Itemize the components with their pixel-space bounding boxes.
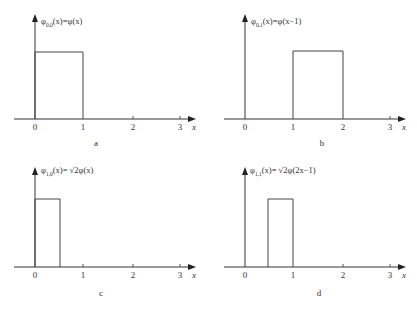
chart-title: φ0,1(x)=φ(x−1) — [251, 16, 302, 28]
chart-title: φ1,0(x)= √2φ(x) — [41, 165, 94, 177]
tick-label-1: 1 — [81, 270, 86, 280]
tick-label-1: 1 — [291, 270, 296, 280]
panel-c: 0 1 2 3 x φ1,0(x)= √2φ(x) c — [14, 165, 196, 298]
panel-caption: b — [320, 138, 325, 148]
panel-b: 0 1 2 3 x φ0,1(x)=φ(x−1) b — [224, 14, 406, 148]
step-function — [35, 199, 60, 267]
y-axis-arrow-icon — [242, 167, 248, 175]
haar-scaling-figure: 0 1 2 3 x φ0,0(x)=φ(x) a 0 1 2 3 x φ0,1(… — [0, 0, 417, 310]
tick-label-2: 2 — [131, 270, 136, 280]
tick-label-2: 2 — [341, 122, 346, 132]
step-function — [35, 52, 83, 119]
y-axis-arrow-icon — [32, 14, 38, 22]
chart-title: φ0,0(x)=φ(x) — [41, 16, 82, 28]
tick-label-3: 3 — [388, 270, 393, 280]
tick-label-0: 0 — [243, 122, 248, 132]
panel-caption: d — [317, 288, 322, 298]
tick-label-0: 0 — [33, 122, 38, 132]
tick-label-0: 0 — [243, 270, 248, 280]
panel-d: 0 1 2 3 x φ1,1(x)= √2φ(2x−1) d — [224, 165, 406, 298]
y-axis-arrow-icon — [32, 167, 38, 175]
y-axis-arrow-icon — [242, 14, 248, 22]
tick-label-0: 0 — [33, 270, 38, 280]
x-axis-label: x — [401, 270, 406, 280]
panel-caption: c — [99, 288, 103, 298]
x-axis-label: x — [401, 122, 406, 132]
step-function — [293, 51, 343, 119]
tick-label-3: 3 — [178, 270, 183, 280]
tick-label-2: 2 — [341, 270, 346, 280]
chart-title: φ1,1(x)= √2φ(2x−1) — [250, 165, 316, 177]
x-axis-label: x — [191, 270, 196, 280]
tick-label-1: 1 — [291, 122, 296, 132]
tick-label-1: 1 — [81, 122, 86, 132]
tick-label-3: 3 — [178, 122, 183, 132]
tick-label-3: 3 — [388, 122, 393, 132]
step-function — [268, 199, 293, 267]
panel-a: 0 1 2 3 x φ0,0(x)=φ(x) a — [14, 14, 196, 148]
x-axis-label: x — [191, 122, 196, 132]
tick-label-2: 2 — [131, 122, 136, 132]
panel-caption: a — [94, 138, 98, 148]
